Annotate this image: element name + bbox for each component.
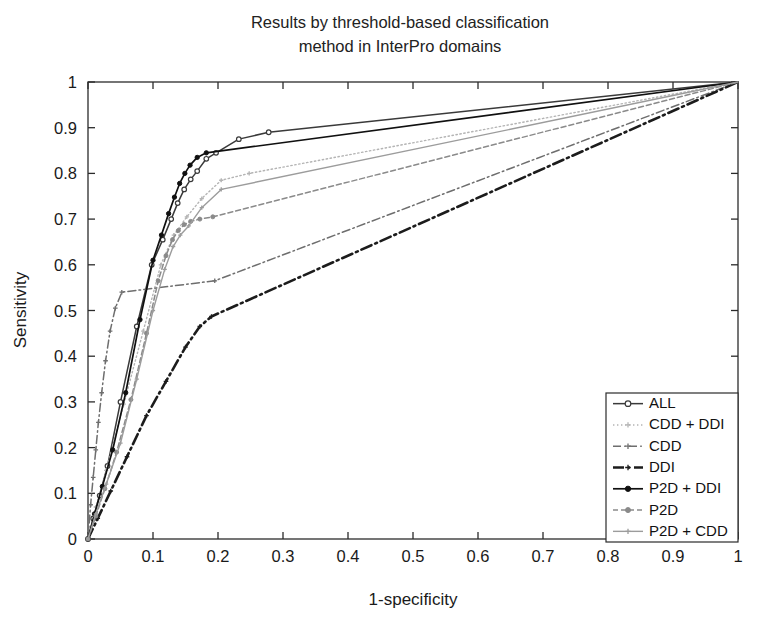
legend-item-label: P2D + CDD	[649, 522, 728, 539]
series-marker	[237, 137, 242, 142]
y-tick-label: 0	[68, 530, 77, 548]
series-marker	[111, 448, 115, 452]
series-marker	[178, 181, 182, 185]
legend-item-label: CDD + DDI	[649, 415, 724, 432]
series-marker	[172, 195, 176, 199]
series-marker	[266, 130, 271, 135]
y-axis-title: Sensitivity	[11, 271, 30, 348]
series-marker	[182, 223, 186, 227]
y-tick-label: 0.2	[54, 439, 77, 457]
x-tick-label: 0.2	[207, 547, 230, 565]
series-marker	[151, 258, 155, 262]
series-marker	[195, 155, 199, 159]
y-tick-label: 0.1	[54, 484, 77, 502]
series-marker	[198, 217, 202, 221]
x-tick-label: 0.6	[467, 547, 490, 565]
y-tick-label: 0.8	[54, 164, 77, 182]
series-marker	[159, 233, 163, 237]
x-tick-label: 0.3	[272, 547, 295, 565]
y-tick-label: 1	[68, 73, 77, 91]
series-marker	[169, 217, 174, 222]
legend-item-label: P2D + DDI	[649, 479, 721, 496]
series-marker	[175, 201, 180, 206]
chart-title-line-1: Results by threshold-based classificatio…	[251, 13, 549, 31]
series-marker	[188, 163, 192, 167]
series-marker	[118, 400, 123, 405]
y-tick-label: 0.9	[54, 119, 77, 137]
series-marker	[156, 279, 160, 283]
legend-item-label: DDI	[649, 458, 675, 475]
legend-item-label: CDD	[649, 437, 682, 454]
legend-sample-marker	[625, 486, 630, 491]
y-tick-label: 0.5	[54, 302, 77, 320]
series-marker	[188, 177, 193, 182]
series-marker	[195, 169, 200, 174]
series-marker	[171, 238, 175, 242]
y-tick-label: 0.6	[54, 256, 77, 274]
legend-sample-marker	[625, 401, 631, 407]
x-axis-title: 1-specificity	[369, 590, 458, 609]
legend-item-label: ALL	[649, 394, 676, 411]
x-tick-label: 0.4	[337, 547, 360, 565]
series-marker	[183, 171, 187, 175]
x-tick-label: 0.8	[597, 547, 620, 565]
roc-chart-figure: Results by threshold-based classificatio…	[0, 0, 767, 634]
series-marker	[204, 151, 208, 155]
x-tick-label: 1	[733, 547, 742, 565]
y-tick-label: 0.3	[54, 393, 77, 411]
y-tick-label: 0.4	[54, 347, 77, 365]
series-marker	[176, 229, 180, 233]
series-marker	[211, 215, 215, 219]
legend-sample-marker	[626, 508, 631, 513]
chart-title-line-2: method in InterPro domains	[299, 37, 502, 55]
legend[interactable]: ALLCDD + DDICDDDDIP2D + DDIP2DP2D + CDD	[606, 393, 738, 542]
series-marker	[124, 391, 128, 395]
x-tick-label: 0	[83, 547, 92, 565]
x-tick-label: 0.1	[142, 547, 165, 565]
series-marker	[204, 156, 209, 161]
series-marker	[182, 187, 187, 192]
y-tick-label: 0.7	[54, 210, 77, 228]
series-marker	[166, 211, 170, 215]
x-tick-label: 0.5	[402, 547, 425, 565]
series-marker	[138, 317, 142, 321]
x-tick-label: 0.9	[662, 547, 685, 565]
x-tick-label: 0.7	[532, 547, 555, 565]
legend-item-label: P2D	[649, 501, 678, 518]
series-marker	[164, 254, 168, 258]
